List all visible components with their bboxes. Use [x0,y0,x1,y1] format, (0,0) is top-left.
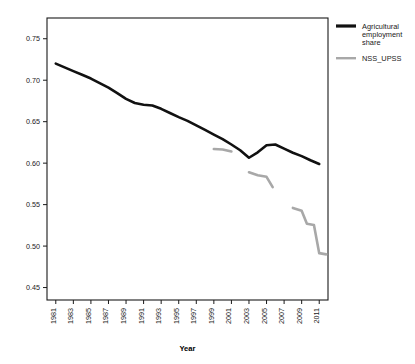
x-tick-label: 1981 [49,308,58,324]
x-tick-label: 1985 [84,308,93,324]
x-tick-label: 2011 [312,308,321,323]
x-tick-label: 1993 [154,308,163,324]
x-tick-label: 1983 [66,308,75,324]
x-tick-label: 1999 [207,308,216,324]
y-tick-label: 0.65 [26,117,40,126]
x-tick-label: 1987 [101,308,110,324]
legend-label-1: share [362,38,381,47]
y-tick-label: 0.45 [26,283,40,292]
line-chart: 0.450.500.550.600.650.700.75 19811983198… [0,0,415,364]
x-tick-label: 2007 [277,308,286,324]
x-axis-title-text: Year [179,344,195,353]
x-tick-label: 1997 [189,308,198,324]
x-tick-label: 2003 [242,308,251,324]
x-tick-label: 1991 [137,308,146,324]
x-tick-label: 2005 [260,308,269,324]
y-tick-label: 0.60 [26,159,40,168]
legend-label-2: NSS_UPSS [362,54,402,63]
y-tick-label: 0.70 [26,76,40,85]
y-tick-label: 0.50 [26,242,40,251]
page-caption-strip [0,354,415,364]
x-tick-label: 2009 [295,308,304,324]
x-tick-label: 1995 [172,308,181,324]
y-tick-label: 0.75 [26,34,40,43]
x-axis-title: Year [179,344,195,353]
y-tick-label: 0.55 [26,200,40,209]
x-tick-label: 1989 [119,308,128,324]
chart-figure: 0.450.500.550.600.650.700.75 19811983198… [0,0,415,364]
x-tick-label: 2001 [224,308,233,324]
